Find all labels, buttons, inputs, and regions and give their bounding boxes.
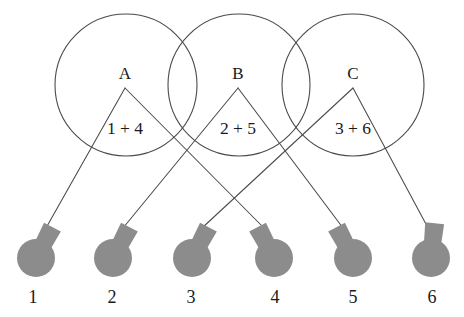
bulb-3[interactable] — [173, 223, 217, 277]
group-label-a: A — [119, 64, 132, 83]
edge-a-bulb-1[interactable] — [46, 88, 125, 228]
bulb-globe — [255, 239, 293, 277]
bulb-globe — [334, 239, 372, 277]
group-label-b: B — [232, 64, 243, 83]
diagram-svg: A B C 1 + 4 2 + 5 3 + 6 1 2 3 4 5 6 — [0, 0, 464, 317]
sum-label-group: 1 + 4 2 + 5 3 + 6 — [107, 118, 371, 138]
bulb-number-2: 2 — [108, 287, 117, 307]
edge-b-bulb-5[interactable] — [238, 88, 343, 228]
bulb-number-group: 1 2 3 4 5 6 — [29, 287, 437, 307]
sum-label-c: 3 + 6 — [335, 118, 371, 138]
bulb-globe — [94, 239, 132, 277]
sum-label-b: 2 + 5 — [220, 118, 256, 138]
bulb-globe — [173, 239, 211, 277]
bulb-number-6: 6 — [428, 287, 437, 307]
group-label-c: C — [347, 64, 358, 83]
bulb-6[interactable] — [412, 222, 450, 277]
bulb-number-5: 5 — [349, 287, 358, 307]
edge-b-bulb-2[interactable] — [123, 88, 238, 228]
bulb-number-4: 4 — [271, 287, 280, 307]
connector-group — [46, 88, 427, 228]
bulb-number-3: 3 — [187, 287, 196, 307]
sum-label-a: 1 + 4 — [107, 118, 143, 138]
bulb-group — [17, 222, 450, 277]
bulb-globe — [412, 239, 450, 277]
bulb-globe — [17, 239, 55, 277]
group-label-group: A B C — [119, 64, 359, 83]
bulb-5[interactable] — [328, 223, 372, 277]
bulb-1[interactable] — [17, 223, 61, 277]
edge-c-bulb-3[interactable] — [202, 88, 353, 228]
bulb-4[interactable] — [249, 223, 293, 277]
bulb-number-1: 1 — [29, 287, 38, 307]
edge-c-bulb-6[interactable] — [353, 88, 427, 226]
bulb-2[interactable] — [94, 223, 138, 277]
edge-a-bulb-4[interactable] — [125, 88, 264, 228]
diagram-canvas: A B C 1 + 4 2 + 5 3 + 6 1 2 3 4 5 6 — [0, 0, 464, 317]
